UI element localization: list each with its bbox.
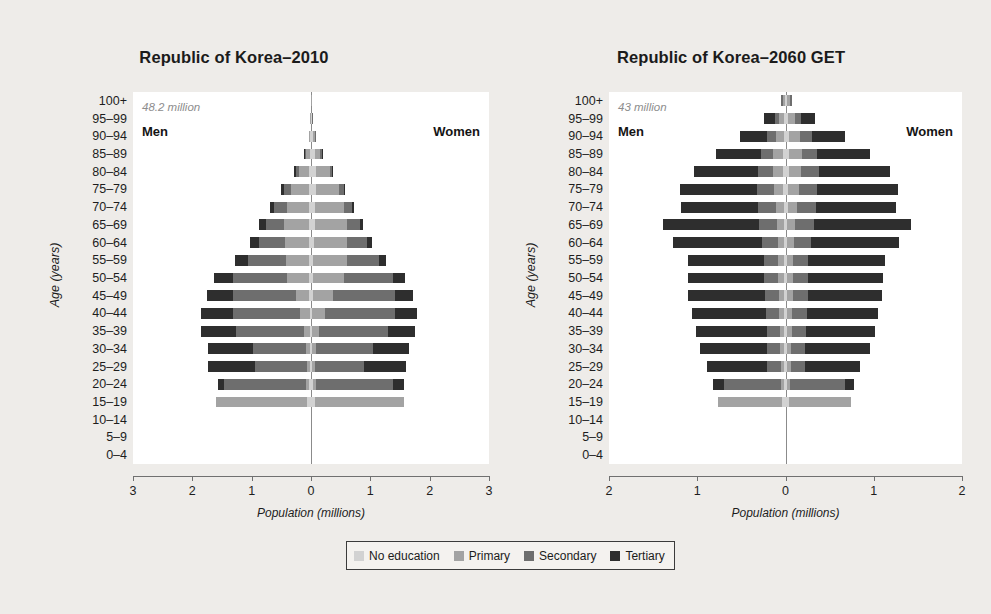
- segment-tertiary: [807, 308, 878, 319]
- bar-women-35-39: [311, 326, 415, 337]
- y-tick-label: 35–39: [568, 324, 603, 338]
- x-tick: [133, 476, 134, 481]
- segment-primary: [718, 397, 782, 408]
- legend-swatch-icon: [524, 551, 534, 561]
- segment-primary: [284, 219, 310, 230]
- x-tick-label: 0: [308, 484, 315, 498]
- bar-women-70-74: [786, 202, 896, 213]
- segment-secondary: [767, 326, 780, 337]
- bar-women-40-44: [311, 308, 417, 319]
- segment-primary: [777, 219, 784, 230]
- y-tick-label: 55–59: [92, 253, 127, 267]
- bar-men-40-44: [201, 308, 311, 319]
- bar-men-20-24: [218, 379, 311, 390]
- segment-primary: [287, 273, 310, 284]
- segment-tertiary: [259, 219, 266, 230]
- y-tick-label: 65–69: [568, 218, 603, 232]
- segment-tertiary: [808, 290, 882, 301]
- bar-row: [609, 237, 962, 248]
- y-tick-label: 95–99: [92, 112, 127, 126]
- bar-row: [609, 343, 962, 354]
- y-tick-label: 0–4: [106, 448, 127, 462]
- y-axis-tick-labels-left: 0–45–910–1415–1920–2425–2930–3435–3940–4…: [71, 92, 127, 464]
- segment-secondary: [757, 184, 774, 195]
- segment-secondary: [253, 343, 306, 354]
- bar-women-60-64: [311, 237, 372, 248]
- y-tick-label: 5–9: [582, 430, 603, 444]
- segment-primary: [315, 397, 404, 408]
- bar-men-75-79: [680, 184, 786, 195]
- bar-women-70-74: [311, 202, 354, 213]
- bar-row: [609, 184, 962, 195]
- y-tick-label: 30–34: [92, 342, 127, 356]
- y-axis-tick-labels-right: 0–45–910–1415–1920–2425–2930–3435–3940–4…: [547, 92, 603, 464]
- x-tick-label: 1: [367, 484, 374, 498]
- segment-secondary: [759, 219, 777, 230]
- segment-secondary: [802, 149, 817, 160]
- bar-men-30-34: [700, 343, 786, 354]
- x-tick: [874, 476, 875, 481]
- segment-primary: [300, 308, 309, 319]
- segment-tertiary: [344, 184, 345, 195]
- y-tick-label: 20–24: [568, 377, 603, 391]
- bar-men-55-59: [688, 255, 786, 266]
- segment-secondary: [793, 255, 808, 266]
- bar-men-95-99: [764, 113, 785, 124]
- segment-tertiary: [332, 166, 333, 177]
- segment-tertiary: [817, 149, 870, 160]
- women-label-left: Women: [433, 124, 480, 139]
- bar-row: [609, 414, 962, 425]
- bar-men-45-49: [207, 290, 311, 301]
- bar-row: [609, 308, 962, 319]
- bar-women-95-99: [311, 113, 312, 124]
- x-tick-label: 1: [870, 484, 877, 498]
- bar-women-25-29: [786, 361, 861, 372]
- y-tick-label: 15–19: [92, 395, 127, 409]
- segment-tertiary: [681, 202, 759, 213]
- segment-secondary: [325, 308, 395, 319]
- segment-tertiary: [250, 237, 259, 248]
- y-tick-label: 100+: [99, 94, 127, 108]
- y-tick-label: 80–84: [92, 165, 127, 179]
- bar-women-75-79: [786, 184, 899, 195]
- bar-row: [133, 237, 489, 248]
- segment-primary: [787, 219, 795, 230]
- chart-title-right: Republic of Korea–2060 GET: [483, 48, 979, 67]
- segment-secondary: [791, 343, 805, 354]
- y-tick-label: 45–49: [568, 289, 603, 303]
- y-tick-label: 70–74: [568, 200, 603, 214]
- segment-tertiary: [201, 308, 233, 319]
- segment-secondary: [795, 219, 814, 230]
- segment-tertiary: [845, 379, 854, 390]
- bar-women-55-59: [311, 255, 386, 266]
- segment-secondary: [224, 379, 305, 390]
- segment-secondary: [758, 166, 773, 177]
- bar-men-90-94: [740, 131, 786, 142]
- segment-primary: [773, 149, 783, 160]
- bar-men-85-89: [716, 149, 786, 160]
- y-tick-label: 25–29: [568, 360, 603, 374]
- segment-tertiary: [663, 219, 759, 230]
- segment-tertiary: [395, 290, 413, 301]
- bar-men-15-19: [216, 397, 311, 408]
- y-tick-label: 100+: [575, 94, 603, 108]
- segment-primary: [299, 166, 309, 177]
- segment-primary: [788, 113, 795, 124]
- y-tick-label: 35–39: [92, 324, 127, 338]
- bar-row: [133, 149, 489, 160]
- bar-row: [609, 450, 962, 461]
- legend-item: Secondary: [524, 549, 596, 563]
- bar-men-80-84: [694, 166, 786, 177]
- segment-tertiary: [688, 255, 765, 266]
- segment-tertiary: [819, 166, 890, 177]
- bar-women-30-34: [311, 343, 409, 354]
- segment-primary: [773, 166, 783, 177]
- segment-secondary: [319, 326, 388, 337]
- y-tick-label: 85–89: [568, 147, 603, 161]
- y-axis-title-right: Age (years): [524, 225, 538, 325]
- bar-row: [609, 326, 962, 337]
- bar-men-65-69: [259, 219, 311, 230]
- segment-tertiary: [811, 237, 899, 248]
- bar-men-15-19: [718, 397, 786, 408]
- figure-root: Republic of Korea–2010 Age (years) 0–45–…: [0, 0, 991, 614]
